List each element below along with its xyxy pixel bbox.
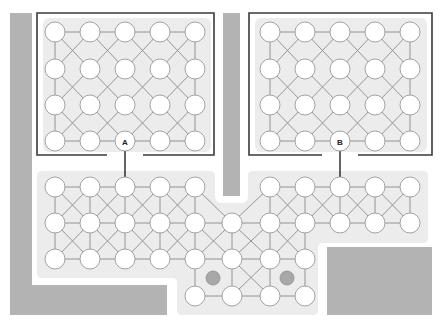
left-wall-bottom	[10, 285, 167, 315]
bottom-node[interactable]	[365, 213, 385, 233]
right-node[interactable]	[365, 95, 385, 115]
bottom-node[interactable]	[150, 177, 170, 197]
left-node[interactable]	[115, 22, 135, 42]
right-node[interactable]	[260, 95, 280, 115]
bottom-node[interactable]	[80, 177, 100, 197]
right-node[interactable]	[330, 95, 350, 115]
bottom-node[interactable]	[185, 213, 205, 233]
bottom-node[interactable]	[365, 177, 385, 197]
middle-wall	[223, 13, 240, 196]
bottom-node[interactable]	[80, 213, 100, 233]
right-node[interactable]	[260, 131, 280, 151]
bottom-node[interactable]	[45, 213, 65, 233]
right-node[interactable]	[330, 59, 350, 79]
right-node[interactable]	[260, 59, 280, 79]
left-node[interactable]	[150, 95, 170, 115]
gateway-b-label: B	[337, 138, 343, 147]
right-node[interactable]	[295, 131, 315, 151]
left-node[interactable]	[115, 95, 135, 115]
right-node[interactable]	[295, 22, 315, 42]
bottom-node[interactable]	[260, 286, 280, 306]
bottom-node[interactable]	[185, 249, 205, 269]
bottom-node[interactable]	[260, 177, 280, 197]
bottom-node[interactable]	[400, 177, 420, 197]
right-node[interactable]	[330, 22, 350, 42]
left-node[interactable]	[185, 95, 205, 115]
bottom-node[interactable]	[45, 177, 65, 197]
bottom-node[interactable]	[295, 249, 315, 269]
left-wall-vertical	[10, 13, 32, 315]
bottom-node[interactable]	[330, 177, 350, 197]
bottom-node[interactable]	[260, 249, 280, 269]
bottom-node[interactable]	[330, 213, 350, 233]
left-node[interactable]	[45, 59, 65, 79]
bottom-node[interactable]	[115, 213, 135, 233]
left-node[interactable]	[150, 131, 170, 151]
left-node[interactable]	[185, 59, 205, 79]
right-node[interactable]	[400, 95, 420, 115]
bottom-node[interactable]	[150, 213, 170, 233]
bottom-node[interactable]	[115, 249, 135, 269]
right-bottom-block	[327, 247, 432, 315]
left-node[interactable]	[80, 95, 100, 115]
bottom-node[interactable]	[150, 249, 170, 269]
bottom-node[interactable]	[295, 286, 315, 306]
bottom-node[interactable]	[400, 213, 420, 233]
right-node[interactable]	[365, 59, 385, 79]
bottom-node[interactable]	[295, 177, 315, 197]
marker-dot	[280, 271, 294, 285]
bottom-node[interactable]	[45, 249, 65, 269]
left-node[interactable]	[80, 131, 100, 151]
left-node[interactable]	[80, 59, 100, 79]
bottom-node[interactable]	[222, 213, 242, 233]
left-node[interactable]	[45, 22, 65, 42]
bottom-node[interactable]	[185, 177, 205, 197]
left-node[interactable]	[185, 22, 205, 42]
left-node[interactable]	[45, 95, 65, 115]
bottom-node[interactable]	[115, 177, 135, 197]
left-node[interactable]	[185, 131, 205, 151]
right-node[interactable]	[400, 131, 420, 151]
left-node[interactable]	[80, 22, 100, 42]
bottom-node[interactable]	[185, 286, 205, 306]
right-node[interactable]	[400, 22, 420, 42]
right-node[interactable]	[295, 95, 315, 115]
left-node[interactable]	[150, 22, 170, 42]
bottom-node[interactable]	[295, 213, 315, 233]
gateway-a-label: A	[122, 138, 128, 147]
left-node[interactable]	[150, 59, 170, 79]
bottom-node[interactable]	[260, 213, 280, 233]
right-node[interactable]	[365, 131, 385, 151]
network-diagram: A B	[0, 0, 442, 326]
right-node[interactable]	[365, 22, 385, 42]
right-node[interactable]	[400, 59, 420, 79]
bottom-node[interactable]	[222, 286, 242, 306]
right-node[interactable]	[260, 22, 280, 42]
left-node[interactable]	[45, 131, 65, 151]
bottom-node[interactable]	[222, 249, 242, 269]
marker-dot	[206, 271, 220, 285]
bottom-node[interactable]	[80, 249, 100, 269]
left-node[interactable]	[115, 59, 135, 79]
right-node[interactable]	[295, 59, 315, 79]
